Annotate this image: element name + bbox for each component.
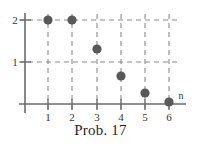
data-points [43,15,173,106]
x-axis-label: n [179,90,184,101]
figure-container: 2 1 1 2 3 4 5 6 n Prob. 17 [0,0,201,147]
data-point [92,44,101,53]
data-point [164,97,173,106]
y-tick-label-1: 1 [12,56,18,68]
data-point [67,15,76,24]
data-point [43,15,52,24]
horizontal-gridlines [19,20,180,62]
data-point [140,88,149,97]
data-point [116,71,125,80]
y-tick-label-2: 2 [12,14,18,26]
figure-caption: Prob. 17 [0,122,201,139]
